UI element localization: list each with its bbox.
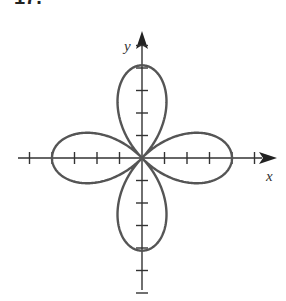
rose-curve-figure: x y [0,0,286,301]
x-axis-label: x [265,168,273,184]
y-axis-label: y [122,38,131,54]
